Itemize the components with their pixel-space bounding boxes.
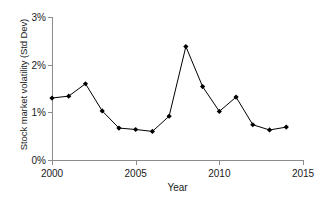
y-axis-title: Stock market volatility (Std Dev) xyxy=(18,5,29,165)
data-point-2005 xyxy=(133,127,138,132)
plot-area: 0%1%2%3% 2000200520102015 xyxy=(52,17,303,160)
volatility-line-chart: Stock market volatility (Std Dev) 0%1%2%… xyxy=(0,0,321,202)
data-point-2014 xyxy=(284,125,289,130)
x-tick-label: 2010 xyxy=(208,168,230,179)
data-point-2013 xyxy=(267,127,272,132)
data-series-volatility xyxy=(52,17,303,161)
data-point-2008 xyxy=(183,44,188,49)
data-point-2012 xyxy=(250,122,255,127)
y-tick-label: 1% xyxy=(32,107,46,118)
y-tick-label: 0% xyxy=(32,155,46,166)
y-tick-label: 2% xyxy=(32,59,46,70)
x-tick-mark xyxy=(303,160,304,165)
x-tick-label: 2015 xyxy=(292,168,314,179)
y-tick-label: 3% xyxy=(32,12,46,23)
data-point-2000 xyxy=(49,95,54,100)
series-markers xyxy=(49,44,288,134)
x-axis-title: Year xyxy=(52,182,303,193)
x-tick-label: 2000 xyxy=(41,168,63,179)
x-tick-label: 2005 xyxy=(125,168,147,179)
